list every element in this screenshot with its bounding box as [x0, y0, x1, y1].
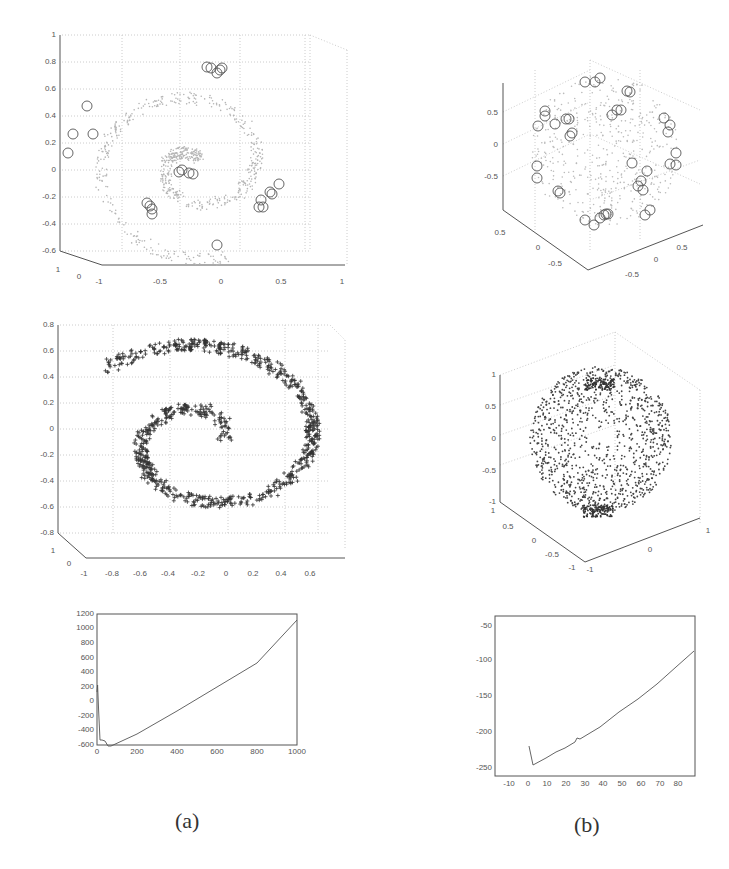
- svg-text:0.6: 0.6: [304, 569, 316, 578]
- z-tick-labels: 0.50-0.5: [484, 108, 498, 181]
- chart-a-mid-svg: 0.80.60.40.2 0-0.2-0.4-0.6-0.8 -1-0.8-0.…: [0, 310, 360, 580]
- svg-text:0.2: 0.2: [247, 569, 259, 578]
- svg-text:1: 1: [491, 506, 496, 515]
- svg-text:400: 400: [170, 747, 184, 756]
- chart-b-bottom-svg: -50-100-150-200-250: [470, 600, 720, 780]
- chart-b-top: 0.50-0.5 0.50-0.5 -0.500.5: [460, 50, 720, 290]
- svg-text:70: 70: [656, 779, 665, 788]
- svg-text:0: 0: [526, 779, 531, 788]
- grid-lines: [503, 60, 700, 250]
- axes: [503, 83, 703, 270]
- svg-text:-0.5: -0.5: [153, 277, 167, 286]
- svg-text:1200: 1200: [76, 609, 94, 618]
- svg-text:0: 0: [77, 272, 82, 281]
- svg-text:10: 10: [543, 779, 552, 788]
- svg-text:0: 0: [494, 140, 499, 149]
- svg-text:-0.5: -0.5: [482, 466, 496, 475]
- circled-landmarks: [532, 73, 681, 230]
- x-tick-labels: -1-0.50 0.51 10: [56, 265, 345, 286]
- svg-text:0: 0: [224, 569, 229, 578]
- svg-text:1: 1: [340, 277, 345, 286]
- y-tick-labels: 12001000800600 4002000-200 -400-600: [76, 609, 94, 749]
- svg-text:-1: -1: [489, 497, 497, 506]
- svg-text:-0.8: -0.8: [105, 569, 119, 578]
- svg-text:-200: -200: [476, 727, 493, 736]
- z-tick-labels: 10.50-0.5-1: [482, 370, 496, 506]
- svg-text:-1: -1: [95, 277, 103, 286]
- svg-text:0.2: 0.2: [45, 138, 57, 147]
- svg-text:30: 30: [581, 779, 590, 788]
- svg-text:1000: 1000: [288, 747, 306, 756]
- sphere-points: [529, 366, 672, 518]
- svg-text:-0.5: -0.5: [545, 550, 559, 559]
- svg-text:0.5: 0.5: [494, 228, 506, 237]
- svg-text:-0.2: -0.2: [191, 569, 205, 578]
- svg-text:-600: -600: [78, 740, 95, 749]
- svg-text:-1: -1: [586, 565, 594, 574]
- svg-text:-0.2: -0.2: [40, 450, 54, 459]
- svg-text:200: 200: [130, 747, 144, 756]
- svg-text:-0.4: -0.4: [40, 476, 54, 485]
- line-series: [97, 620, 297, 746]
- svg-text:-0.4: -0.4: [42, 219, 56, 228]
- svg-text:0: 0: [50, 424, 55, 433]
- svg-text:0: 0: [67, 559, 72, 568]
- x-tick-labels: 02004006008001000: [95, 747, 307, 756]
- y-tick-labels: -50-100-150-200-250: [476, 621, 493, 772]
- xy-tick-labels: 0.50-0.5 -0.500.5: [494, 228, 688, 279]
- svg-text:-0.5: -0.5: [625, 270, 639, 279]
- spiral-points: [95, 92, 263, 266]
- svg-text:0.8: 0.8: [45, 57, 57, 66]
- svg-text:1: 1: [51, 546, 56, 555]
- svg-text:0.5: 0.5: [676, 243, 688, 252]
- svg-text:0.6: 0.6: [43, 346, 55, 355]
- svg-text:-150: -150: [476, 691, 493, 700]
- line-series: [529, 651, 694, 765]
- svg-text:80: 80: [674, 779, 683, 788]
- chart-b-bottom-xticks: -100102030 4050607080: [470, 776, 720, 790]
- svg-text:200: 200: [81, 682, 95, 691]
- svg-text:0.5: 0.5: [275, 277, 287, 286]
- svg-text:1000: 1000: [76, 623, 94, 632]
- svg-text:0.4: 0.4: [43, 372, 55, 381]
- svg-text:800: 800: [250, 747, 264, 756]
- svg-text:-50: -50: [480, 621, 492, 630]
- svg-text:40: 40: [599, 779, 608, 788]
- chart-b-top-svg: 0.50-0.5 0.50-0.5 -0.500.5: [460, 50, 720, 290]
- svg-text:50: 50: [618, 779, 627, 788]
- svg-text:-0.5: -0.5: [548, 259, 562, 268]
- svg-text:20: 20: [562, 779, 571, 788]
- z-tick-labels: 10.80.6 0.40.20 -0.2-0.4-0.6: [42, 30, 56, 255]
- svg-text:0.2: 0.2: [43, 398, 55, 407]
- svg-text:1: 1: [56, 265, 61, 274]
- caption-a: (a): [175, 808, 199, 834]
- svg-text:-0.8: -0.8: [40, 528, 54, 537]
- svg-text:1: 1: [706, 526, 711, 535]
- plot-frame: [495, 616, 695, 776]
- plot-frame: [97, 614, 297, 745]
- svg-text:-0.6: -0.6: [40, 502, 54, 511]
- chart-a-bottom-svg: 12001000800600 4002000-200 -400-600 0200…: [60, 600, 360, 760]
- svg-text:-400: -400: [78, 725, 95, 734]
- svg-text:1: 1: [52, 30, 57, 39]
- x-tick-labels: -1-0.8-0.6-0.4 -0.200.20.40.6 10: [51, 546, 316, 578]
- svg-text:0.4: 0.4: [45, 111, 57, 120]
- svg-text:0.4: 0.4: [275, 569, 287, 578]
- svg-text:0: 0: [52, 165, 57, 174]
- svg-text:400: 400: [81, 667, 95, 676]
- svg-text:0: 0: [492, 434, 497, 443]
- svg-text:-200: -200: [78, 711, 95, 720]
- svg-text:-1: -1: [568, 563, 576, 572]
- chart-a-top: 10.80.6 0.40.20 -0.2-0.4-0.6 -1-0.50 0.5…: [0, 0, 360, 300]
- spiral-plus-points: [103, 337, 321, 509]
- grid-lines: [500, 332, 700, 525]
- svg-text:0: 0: [654, 255, 659, 264]
- grid-lines: [60, 325, 345, 550]
- svg-text:0.8: 0.8: [43, 320, 55, 329]
- sphere-points-light: [532, 76, 680, 225]
- svg-text:0: 0: [536, 243, 541, 252]
- svg-text:600: 600: [81, 653, 95, 662]
- svg-text:0: 0: [219, 277, 224, 286]
- svg-text:0.5: 0.5: [485, 402, 497, 411]
- axes: [58, 325, 345, 558]
